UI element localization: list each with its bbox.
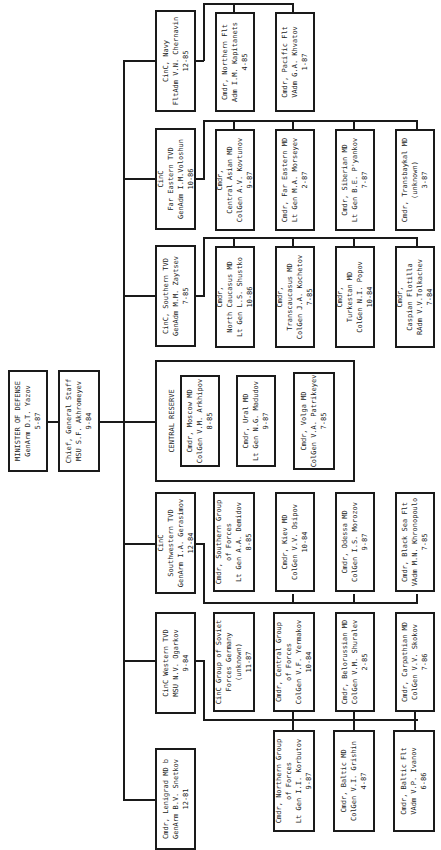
black-sea-flt-text: Cmdr, Black Sea Flt VAdm M.N. Khronopoul… xyxy=(400,498,430,587)
baltic-flt-box: Cmdr, Baltic Flt VAdm V.P. Ivanov 6-86 xyxy=(393,730,435,832)
north-caucasus-md-box: Cmdr, North Caucasus MD Lt Gen L.S. Shus… xyxy=(215,246,255,348)
root-name: GenArm D.T. Yazov xyxy=(24,385,32,457)
trunk-fareast-line xyxy=(123,178,155,180)
odessa-md-box: Cmdr, Odessa MD ColGen I.S. Morozov 9-87 xyxy=(335,492,375,592)
northern-flt-box: Cmdr, Northern Flt Adm I.M. Kapitanets 4… xyxy=(215,12,255,112)
northern-group-forces-box: Cmdr, Northern Group of Forces Lt Gen I.… xyxy=(273,730,315,832)
transbaykal-md-box: Cmdr, Transbaykal MD (unknown) 3-87 xyxy=(395,129,435,231)
gsfg-box: CinC Group of Soviet Forces Germany (unk… xyxy=(213,612,255,712)
sw-d2 xyxy=(292,594,294,604)
kiev-md-text: Cmdr, Kiev MD ColGen V.V. Osipov 10-84 xyxy=(280,504,310,580)
odessa-md-text: Cmdr, Odessa MD ColGen I.S. Morozov 9-87 xyxy=(340,502,370,582)
central-group-forces-box: Cmdr, Central Group of Forces ColGen V.F… xyxy=(273,612,315,712)
leningrad-md-box: Cmdr, Lenigrad MD b GenArm B.V. Snetkov … xyxy=(155,748,196,850)
navy-bus-h xyxy=(203,3,293,5)
fe-bus-v xyxy=(203,120,205,180)
w-bus-v xyxy=(203,660,205,720)
baltic-md-box: Cmdr, Baltic MD ColGen V.I. Grishin 4-87 xyxy=(333,730,375,832)
trunk-leningrad-line xyxy=(123,799,155,801)
transcaucasus-md-text: Cmdr, Transcaucasus MD ColGen J.A. Koche… xyxy=(275,255,315,339)
sw-bus-h xyxy=(203,602,418,604)
baltic-flt-text: Cmdr, Baltic Flt VAdm V.P. Ivanov 6-86 xyxy=(399,747,429,814)
chief-staff-title: Chief, General Staff xyxy=(65,379,73,463)
navy-box: CinC, Navy FltAdm V.N. Chernavin 12-85 xyxy=(155,10,196,112)
central-group-text: Cmdr, Central Group of Forces ColGen V.F… xyxy=(274,620,314,704)
chief-general-staff-box: Chief, General Staff MSU S.F. Akhromeyev… xyxy=(58,370,100,472)
s-tvd-text: CinC, Southern TVD GenAdm M.M. Zaytsev 7… xyxy=(161,256,191,336)
staff-to-trunk-line xyxy=(98,421,124,423)
leningrad-text: Cmdr, Lenigrad MD b GenArm B.V. Snetkov … xyxy=(161,759,191,839)
black-sea-flt-box: Cmdr, Black Sea Flt VAdm M.N. Khronopoul… xyxy=(395,492,435,592)
far-eastern-md-text: Cmdr, Far Eastern MD Lt Gen M.A. Morseye… xyxy=(280,138,310,222)
w-bus-h xyxy=(203,719,418,721)
trunk-southwest-line xyxy=(123,543,155,545)
carpathian-md-box: Cmdr, Carpathian MD ColGen V.V. Skokov 7… xyxy=(395,612,435,712)
w-tvd-text: CinC Western TVD MSU N.V. Ogarkov 9-84 xyxy=(161,629,191,696)
minister-text: MINISTER OF DEFENSE GenArm D.T. Yazov 5-… xyxy=(13,381,43,461)
w-d4 xyxy=(414,712,416,732)
belorussian-md-box: Cmdr, Belorussian MD ColGen V.M. Shurale… xyxy=(335,612,375,712)
navy-bus-v xyxy=(203,3,205,61)
ural-md-box: Cmdr, Ural MD Lt Gen N.G. Madudov 9-87 xyxy=(236,375,276,467)
w-d3 xyxy=(353,712,355,732)
siberian-md-box: Cmdr, Siberian MD Lt Gen B.E. P'yankov 7… xyxy=(335,129,375,231)
fe-tvd-text: CinC Far Eastern TVD GenAdm I.M.Voloshun… xyxy=(156,139,196,219)
central-reserve-label: CENTRAL RESERVE xyxy=(168,389,176,452)
sw-bus-v xyxy=(203,543,205,603)
southern-group-forces-box: Cmdr, Southern Group of Forces Lt Gen A.… xyxy=(213,492,255,592)
transcaucasus-md-box: Cmdr, Transcaucasus MD ColGen J.A. Koche… xyxy=(275,246,315,348)
fe-bus-h xyxy=(203,120,418,122)
chief-staff-date: 9-84 xyxy=(85,413,93,430)
far-eastern-tvd-box: CinC Far Eastern TVD GenAdm I.M.Voloshun… xyxy=(155,128,196,230)
navy-text: CinC, Navy FltAdm V.N. Chernavin 12-85 xyxy=(161,17,191,106)
sw-tvd-text: CinC Southwestern TVD GenArm I.A. Gerasi… xyxy=(156,499,196,588)
moscow-md-text: Cmdr, Moscow MD ColGen V.M. Arkhipov 8-8… xyxy=(185,379,215,463)
northern-group-text: Cmdr, Northern Group of Forces Lt Gen I.… xyxy=(274,739,314,823)
central-asian-md-text: Cmdr, Central Asian MD ColGen A.V. Kovtu… xyxy=(215,138,255,222)
ural-md-text: Cmdr, Ural MD Lt Gen N.G. Madudov 9-87 xyxy=(241,381,271,461)
southern-tvd-box: CinC, Southern TVD GenAdm M.M. Zaytsev 7… xyxy=(155,245,196,347)
southwestern-tvd-box: CinC Southwestern TVD GenArm I.A. Gerasi… xyxy=(155,492,196,594)
chief-staff-name: MSU S.F. Akhromeyev xyxy=(75,381,83,461)
caspian-flotilla-box: Cmdr, Caspian Flotilla RAdm V.V.Tolkache… xyxy=(395,246,435,348)
root-date: 5-87 xyxy=(34,413,42,430)
trunk-western-line xyxy=(123,660,155,662)
vertical-trunk-line xyxy=(123,60,125,800)
turkestan-md-text: Cmdr, Turkestan MD ColGen N.I. Popov 10-… xyxy=(335,261,375,333)
kiev-md-box: Cmdr, Kiev MD ColGen V.V. Osipov 10-84 xyxy=(275,492,315,592)
volga-md-box: Cmdr, Volga MD ColGen V.A. Patrikeyev 7-… xyxy=(293,372,335,470)
southern-group-text: Cmdr, Southern Group of Forces Lt Gen A.… xyxy=(214,500,254,584)
caspian-flotilla-text: Cmdr, Caspian Flotilla RAdm V.V.Tolkache… xyxy=(395,259,435,335)
western-tvd-box: CinC Western TVD MSU N.V. Ogarkov 9-84 xyxy=(155,612,196,714)
central-asian-md-box: Cmdr, Central Asian MD ColGen A.V. Kovtu… xyxy=(215,129,255,231)
far-eastern-md-box: Cmdr, Far Eastern MD Lt Gen M.A. Morseye… xyxy=(275,129,315,231)
w-d2 xyxy=(292,712,294,732)
trunk-navy-line xyxy=(123,60,155,62)
trunk-southern-line xyxy=(123,295,155,297)
s-bus-h xyxy=(203,237,418,239)
belorussian-md-text: Cmdr, Belorussian MD ColGen V.M. Shurale… xyxy=(340,620,370,704)
volga-md-text: Cmdr, Volga MD ColGen V.A. Patrikeyev 7-… xyxy=(299,375,329,468)
root-title: MINISTER OF DEFENSE xyxy=(14,381,22,461)
turkestan-md-box: Cmdr, Turkestan MD ColGen N.I. Popov 10-… xyxy=(335,246,375,348)
pacific-flt-box: Cmdr, Pacific Flt VAdm G.A. Khvatov 1-87 xyxy=(275,12,315,112)
baltic-md-text: Cmdr, Baltic MD ColGen V.I. Grishin 4-87 xyxy=(339,741,369,821)
moscow-md-box: Cmdr, Moscow MD ColGen V.M. Arkhipov 8-8… xyxy=(180,375,220,467)
trunk-reserve-line xyxy=(123,421,155,423)
siberian-md-text: Cmdr, Siberian MD Lt Gen B.E. P'yankov 7… xyxy=(340,138,370,222)
northern-flt-text: Cmdr, Northern Flt Adm I.M. Kapitanets 4… xyxy=(220,22,250,102)
gsfg-text: CinC Group of Soviet Forces Germany (unk… xyxy=(214,620,254,704)
minister-of-defense-box: MINISTER OF DEFENSE GenArm D.T. Yazov 5-… xyxy=(8,370,48,472)
chief-staff-text: Chief, General Staff MSU S.F. Akhromeyev… xyxy=(64,379,94,463)
north-caucasus-md-text: Cmdr, North Caucasus MD Lt Gen L.S. Shus… xyxy=(215,257,255,337)
carpathian-md-text: Cmdr, Carpathian MD ColGen V.V. Skokov 7… xyxy=(400,622,430,702)
pacific-flt-text: Cmdr, Pacific Flt VAdm G.A. Khvatov 1-87 xyxy=(280,26,310,98)
sw-d4 xyxy=(416,594,418,604)
s-bus-v xyxy=(203,237,205,297)
sw-d3 xyxy=(353,594,355,604)
transbaykal-md-text: Cmdr, Transbaykal MD (unknown) 3-87 xyxy=(400,138,430,222)
